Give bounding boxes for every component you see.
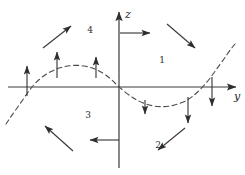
labels-group: zy1234: [85, 8, 241, 150]
quadrant-label-2: 2: [155, 140, 161, 150]
phase-plane-figure: zy1234: [0, 0, 245, 175]
y-axis-label: y: [233, 90, 241, 103]
arrow-diagonal-quadrant-1: [167, 24, 195, 48]
nullcline-dashed-curve: [6, 44, 235, 124]
arrow-diagonal-quadrant-3: [45, 126, 73, 151]
z-axis-label: z: [124, 8, 131, 21]
quadrant-label-1: 1: [159, 55, 165, 65]
arrow-diagonal-quadrant-4: [43, 26, 71, 48]
quadrant-label-3: 3: [85, 110, 91, 120]
quadrant-label-4: 4: [87, 25, 93, 35]
arrow-diagonal-quadrant-2: [158, 128, 185, 150]
figure-canvas: zy1234: [0, 0, 245, 175]
nullcline-curve: [6, 44, 235, 124]
